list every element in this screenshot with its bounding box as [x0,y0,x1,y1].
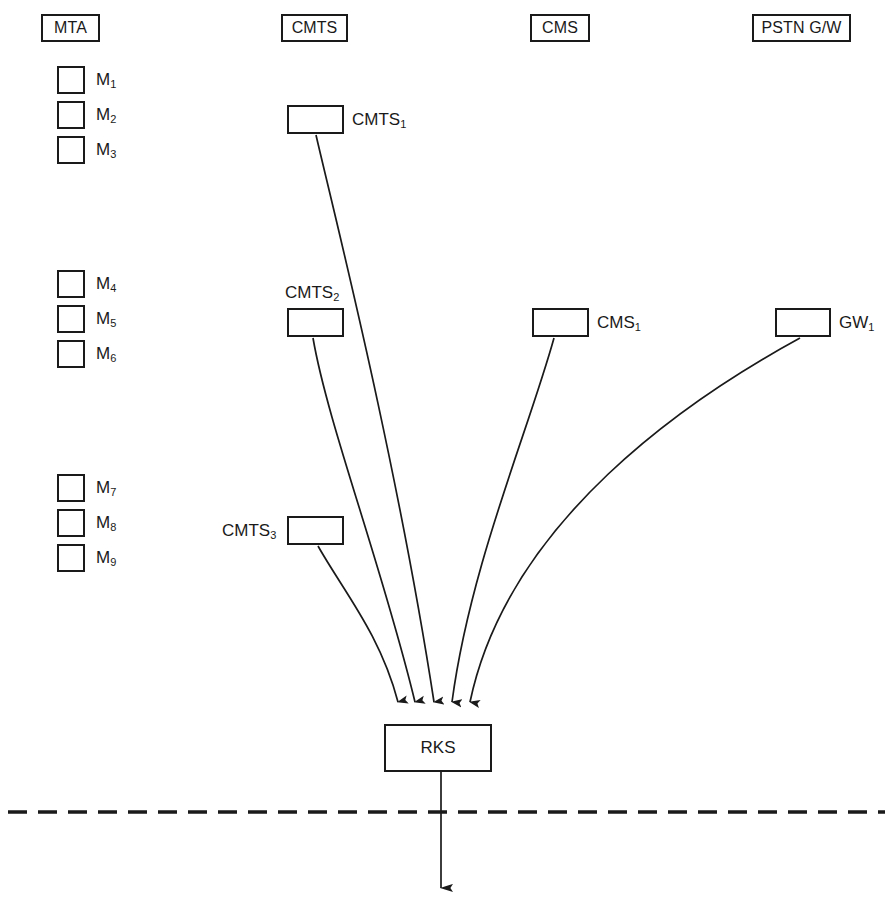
element-label-sub-cmts1: 1 [400,118,406,130]
element-label-cmts1: CMTS1 [352,111,406,128]
rks-node: RKS [384,724,492,772]
element-cmts2 [287,308,344,337]
connection-cmts1-rks [316,135,434,702]
mta-terminal-m4 [57,270,85,298]
mta-label-base-m7: M [96,478,110,497]
element-label-sub-cms1: 1 [635,321,641,333]
mta-label-sub-m5: 5 [110,317,116,329]
mta-terminal-label-m1: M1 [96,71,116,88]
mta-label-sub-m3: 3 [110,148,116,160]
mta-terminal-label-m4: M4 [96,275,116,292]
mta-label-base-m3: M [96,140,110,159]
mta-terminal-m1 [57,66,85,94]
mta-label-sub-m9: 9 [110,556,116,568]
element-label-sub-gw1: 1 [868,321,874,333]
mta-label-base-m5: M [96,309,110,328]
mta-terminal-m7 [57,474,85,502]
mta-label-sub-m6: 6 [110,352,116,364]
element-label-cms1: CMS1 [597,314,641,331]
connection-cms1-rks [452,338,554,702]
mta-terminal-label-m9: M9 [96,549,116,566]
mta-label-base-m2: M [96,105,110,124]
mta-label-sub-m1: 1 [110,78,116,90]
connection-gw1-rks [470,338,800,702]
network-diagram: MTA CMTS CMS PSTN G/W M1 M2 M3 M4 M5 M6 … [0,0,893,906]
element-label-base-cmts2: CMTS [285,283,333,302]
mta-label-base-m6: M [96,344,110,363]
column-header-cmts: CMTS [281,14,348,42]
mta-terminal-m9 [57,544,85,572]
mta-label-sub-m8: 8 [110,521,116,533]
mta-label-sub-m7: 7 [110,486,116,498]
mta-terminal-m5 [57,305,85,333]
element-label-sub-cmts3: 3 [270,529,276,541]
element-label-cmts2: CMTS2 [285,284,339,301]
element-gw1 [775,308,831,337]
column-header-cms: CMS [530,14,590,42]
mta-terminal-label-m7: M7 [96,479,116,496]
mta-terminal-label-m6: M6 [96,345,116,362]
element-label-base-gw1: GW [839,313,868,332]
mta-label-base-m8: M [96,513,110,532]
element-label-cmts3: CMTS3 [222,522,276,539]
element-label-sub-cmts2: 2 [333,291,339,303]
element-label-gw1: GW1 [839,314,874,331]
mta-label-base-m4: M [96,274,110,293]
element-cms1 [532,308,589,337]
column-header-pstn-gw: PSTN G/W [752,14,851,42]
element-cmts3 [287,516,344,545]
mta-terminal-m6 [57,340,85,368]
mta-terminal-label-m5: M5 [96,310,116,327]
mta-terminal-label-m8: M8 [96,514,116,531]
connection-cmts3-rks [318,546,398,702]
element-label-base-cmts1: CMTS [352,110,400,129]
mta-label-sub-m2: 2 [110,113,116,125]
mta-terminal-label-m3: M3 [96,141,116,158]
mta-terminal-m3 [57,136,85,164]
mta-label-base-m1: M [96,70,110,89]
column-header-mta: MTA [41,14,100,42]
mta-terminal-m8 [57,509,85,537]
element-cmts1 [287,105,344,134]
element-label-base-cms1: CMS [597,313,635,332]
mta-terminal-label-m2: M2 [96,106,116,123]
mta-label-sub-m4: 4 [110,282,116,294]
mta-terminal-m2 [57,101,85,129]
element-label-base-cmts3: CMTS [222,521,270,540]
mta-label-base-m9: M [96,548,110,567]
